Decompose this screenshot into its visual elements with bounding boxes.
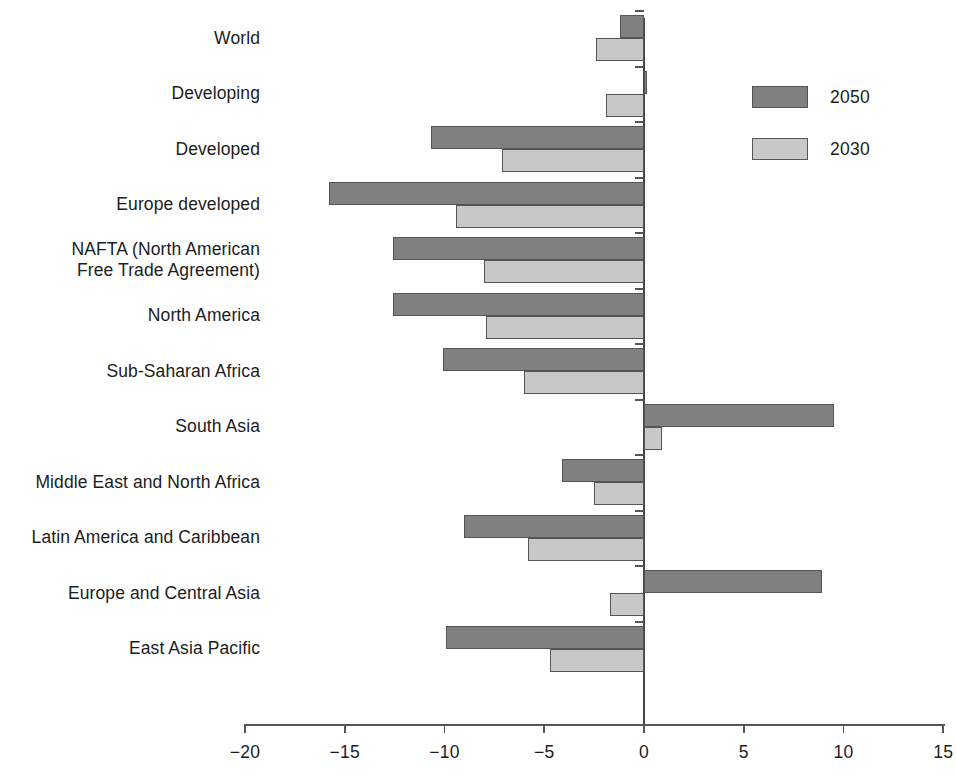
bar-2030 [502, 149, 644, 172]
bar-2030 [456, 205, 644, 228]
bar-2050 [431, 126, 644, 149]
legend-swatch-2050 [752, 86, 808, 108]
x-axis-tick [843, 724, 845, 733]
x-axis-tick-label: −20 [230, 742, 261, 763]
bar-2030 [596, 38, 644, 61]
x-axis-tick-label: −15 [329, 742, 360, 763]
bar-2050 [644, 71, 647, 94]
bar-2030 [594, 482, 644, 505]
bar-2030 [550, 649, 644, 672]
legend-label-2030: 2030 [830, 139, 870, 160]
bar-2050 [393, 237, 644, 260]
y-axis-tick [635, 621, 644, 623]
y-axis-tick [635, 121, 644, 123]
x-axis-tick [444, 724, 446, 733]
legend-item-2050: 2050 [752, 86, 870, 108]
y-axis-tick [635, 10, 644, 12]
x-axis-tick [643, 724, 645, 733]
y-axis-tick [635, 510, 644, 512]
y-axis-tick [635, 454, 644, 456]
x-axis-tick-label: 0 [639, 742, 649, 763]
x-axis-tick [344, 724, 346, 733]
y-axis-tick [635, 399, 644, 401]
bar-2030 [484, 260, 644, 283]
bar-2050 [464, 515, 644, 538]
y-axis-tick [635, 565, 644, 567]
bar-2050 [562, 459, 644, 482]
y-axis-tick [635, 343, 644, 345]
x-axis-tick-label: 5 [739, 742, 749, 763]
x-axis-tick [743, 724, 745, 733]
x-axis-tick [244, 724, 246, 733]
y-axis-tick [635, 177, 644, 179]
bar-2030 [644, 427, 662, 450]
bar-2050 [644, 570, 822, 593]
bar-2030 [486, 316, 644, 339]
x-axis-tick [543, 724, 545, 733]
bar-2030 [606, 94, 644, 117]
legend-swatch-2030 [752, 138, 808, 160]
y-axis-tick [635, 232, 644, 234]
x-axis-tick [942, 724, 944, 733]
bar-2050 [329, 182, 644, 205]
bar-2030 [528, 538, 644, 561]
x-axis-tick-label: 10 [833, 742, 853, 763]
legend-item-2030: 2030 [752, 138, 870, 160]
bar-2030 [610, 593, 644, 616]
bar-2030 [524, 371, 644, 394]
bar-2050 [393, 293, 644, 316]
y-axis-tick [635, 288, 644, 290]
horizontal-bar-chart: WorldDevelopingDevelopedEurope developed… [0, 0, 956, 781]
x-axis-tick-label: −5 [534, 742, 555, 763]
x-axis-tick-label: −10 [429, 742, 460, 763]
legend: 2050 2030 [752, 86, 870, 190]
legend-label-2050: 2050 [830, 87, 870, 108]
bar-2050 [644, 404, 834, 427]
x-axis-tick-label: 15 [933, 742, 953, 763]
x-axis-line [244, 724, 945, 726]
bar-2050 [620, 15, 644, 38]
bar-2050 [443, 348, 644, 371]
bar-2050 [446, 626, 644, 649]
y-axis-tick [635, 66, 644, 68]
